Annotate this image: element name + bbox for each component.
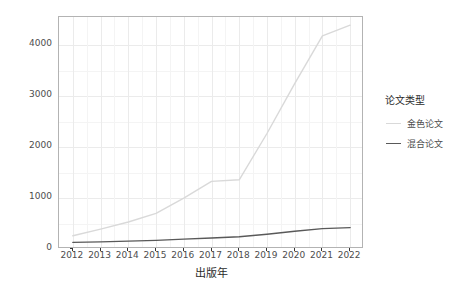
y-axis-ticks: 01000200030004000 (16, 0, 52, 286)
legend-key-icon (385, 115, 402, 132)
x-tick-label: 2022 (329, 251, 369, 260)
x-tick-mark (127, 248, 128, 251)
x-tick-mark (266, 248, 267, 251)
x-tick-mark (321, 248, 322, 251)
y-tick-label: 3000 (18, 90, 52, 99)
x-tick-mark (211, 248, 212, 251)
series-line (73, 25, 350, 236)
legend-items: 金色论文混合论文 (385, 115, 443, 152)
legend-key-icon (385, 135, 402, 152)
data-series-layer (59, 17, 363, 248)
y-tick-label: 1000 (18, 192, 52, 201)
legend-key-line (386, 143, 401, 144)
x-axis-title: 出版年 (58, 264, 364, 280)
legend-item[interactable]: 混合论文 (385, 135, 443, 152)
y-tick-label: 4000 (18, 39, 52, 48)
series-line (73, 228, 350, 243)
x-tick-mark (183, 248, 184, 251)
chart-container: APC费用（万元） 01000200030004000 201220132014… (0, 0, 470, 286)
legend-item-label: 金色论文 (407, 117, 443, 130)
x-tick-mark (349, 248, 350, 251)
legend-key-line (386, 123, 401, 124)
legend: 论文类型 金色论文混合论文 (385, 92, 443, 155)
x-tick-mark (238, 248, 239, 251)
legend-item-label: 混合论文 (407, 137, 443, 150)
x-tick-mark (100, 248, 101, 251)
x-tick-mark (72, 248, 73, 251)
y-tick-label: 2000 (18, 141, 52, 150)
legend-item[interactable]: 金色论文 (385, 115, 443, 132)
y-tick-label: 0 (18, 243, 52, 252)
x-tick-mark (155, 248, 156, 251)
legend-title: 论文类型 (385, 92, 443, 107)
plot-panel (58, 16, 363, 248)
x-tick-mark (294, 248, 295, 251)
